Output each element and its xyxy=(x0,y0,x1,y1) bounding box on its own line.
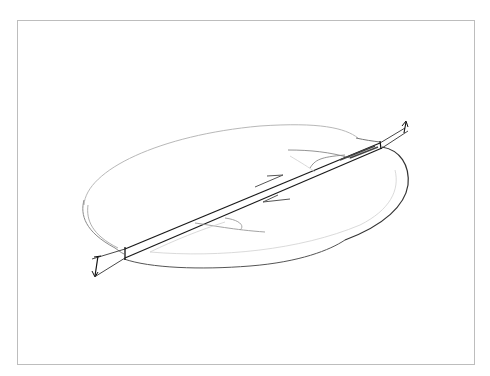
drag-fold-lower-faint xyxy=(150,222,225,252)
ellipse-upper-outline xyxy=(84,125,358,205)
drag-fold-lower xyxy=(195,218,265,232)
fault-sketch xyxy=(0,0,490,376)
ellipse-left-end xyxy=(83,200,124,254)
ellipse-left-end-inner xyxy=(88,205,118,248)
fault-extension-left-bottom xyxy=(96,258,125,276)
ellipse-right-end xyxy=(345,147,408,240)
slip-arrow-lower-left xyxy=(263,195,290,202)
drag-fold-faint-upper xyxy=(290,156,315,172)
ellipse-right-top xyxy=(356,138,380,142)
ellipse-lower-faint xyxy=(150,170,396,254)
fault-extension-left-top xyxy=(92,249,125,259)
